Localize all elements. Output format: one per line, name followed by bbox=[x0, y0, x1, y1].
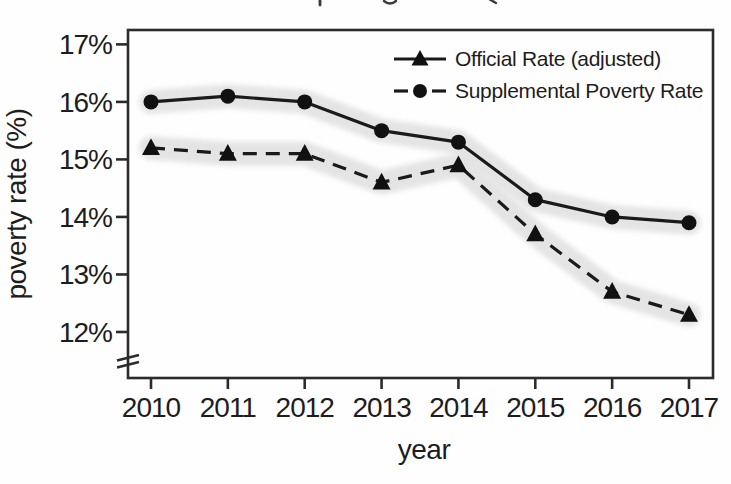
cropped-title-fragment bbox=[489, 0, 496, 3]
data-point-circle bbox=[451, 135, 466, 150]
x-tick-label: 2012 bbox=[276, 392, 335, 423]
x-axis-title: year bbox=[398, 434, 451, 465]
data-point-circle bbox=[297, 94, 312, 109]
legend-marker-circle bbox=[413, 84, 427, 98]
legend-label: Supplemental Poverty Rate bbox=[455, 79, 703, 102]
y-tick-label: 13% bbox=[59, 259, 112, 290]
y-tick-label: 12% bbox=[59, 317, 112, 348]
x-tick-label: 2013 bbox=[352, 392, 411, 423]
y-tick-label: 16% bbox=[59, 87, 112, 118]
x-tick-label: 2016 bbox=[583, 392, 642, 423]
legend-label: Official Rate (adjusted) bbox=[455, 47, 661, 70]
data-point-circle bbox=[220, 89, 235, 104]
data-point-circle bbox=[144, 94, 159, 109]
y-axis-title: poverty rate (%) bbox=[1, 108, 32, 299]
x-tick-label: 2014 bbox=[429, 392, 488, 423]
cropped-title-fragment bbox=[384, 1, 396, 4]
y-tick-label: 17% bbox=[59, 29, 112, 60]
x-tick-label: 2010 bbox=[122, 392, 181, 423]
data-point-circle bbox=[374, 123, 389, 138]
y-tick-label: 15% bbox=[59, 144, 112, 175]
data-point-circle bbox=[605, 209, 620, 224]
scanned-figure: 17%16%15%14%13%12%2010201120122013201420… bbox=[0, 0, 731, 484]
x-tick-label: 2011 bbox=[200, 392, 257, 423]
x-tick-label: 2015 bbox=[506, 392, 565, 423]
chart-canvas: 17%16%15%14%13%12%2010201120122013201420… bbox=[0, 0, 731, 484]
y-tick-label: 14% bbox=[59, 202, 112, 233]
data-point-circle bbox=[681, 215, 696, 230]
x-tick-label: 2017 bbox=[660, 392, 719, 423]
data-point-circle bbox=[528, 192, 543, 207]
